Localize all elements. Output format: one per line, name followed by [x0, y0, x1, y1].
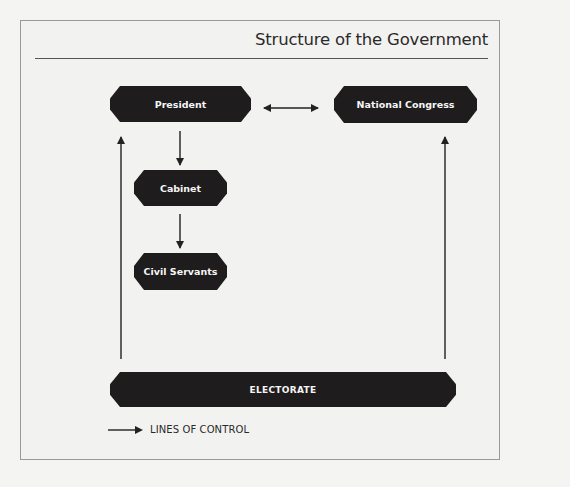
right-arrow-icon [108, 425, 144, 435]
connector-arrows [0, 0, 570, 487]
legend-label: LINES OF CONTROL [150, 424, 249, 435]
legend: LINES OF CONTROL [108, 424, 249, 435]
